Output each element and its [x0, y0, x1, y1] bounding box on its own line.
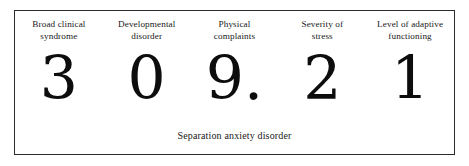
axis-column-developmental-disorder: Developmental disorder 0 — [103, 11, 191, 110]
axis-value-developmental-disorder: 0 — [128, 46, 166, 110]
axis-column-physical-complaints: Physical complaints 9. — [191, 11, 279, 110]
axis-header-level-of-adaptive-functioning: Level of adaptive functioning — [375, 19, 445, 42]
axis-columns: Broad clinical syndrome 3 Developmental … — [15, 11, 454, 110]
axis-header-severity-of-stress: Severity of stress — [299, 19, 345, 42]
axis-column-level-of-adaptive-functioning: Level of adaptive functioning 1 — [366, 11, 454, 110]
multiaxial-code-figure: Broad clinical syndrome 3 Developmental … — [14, 10, 455, 155]
axis-value-severity-of-stress: 2 — [303, 46, 341, 110]
figure-caption: Separation anxiety disorder — [15, 130, 454, 142]
axis-value-broad-clinical-syndrome: 3 — [40, 46, 78, 110]
axis-column-severity-of-stress: Severity of stress 2 — [278, 11, 366, 110]
axis-header-physical-complaints: Physical complaints — [212, 19, 257, 42]
axis-value-physical-complaints: 9. — [206, 46, 263, 110]
axis-header-developmental-disorder: Developmental disorder — [116, 19, 177, 42]
axis-header-broad-clinical-syndrome: Broad clinical syndrome — [30, 19, 87, 42]
axis-value-level-of-adaptive-functioning: 1 — [391, 46, 429, 110]
axis-column-broad-clinical-syndrome: Broad clinical syndrome 3 — [15, 11, 103, 110]
